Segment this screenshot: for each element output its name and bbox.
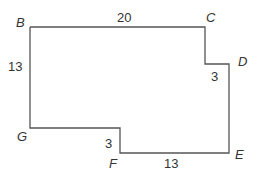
measure-bg: 13 bbox=[8, 60, 22, 73]
vertex-label-b: B bbox=[16, 16, 25, 29]
vertex-label-c: C bbox=[206, 11, 215, 24]
vertex-label-g: G bbox=[17, 130, 27, 143]
vertex-label-f: F bbox=[109, 157, 117, 170]
measure-gf-step: 3 bbox=[105, 137, 112, 150]
measure-bc: 20 bbox=[117, 11, 131, 24]
vertex-label-d: D bbox=[238, 55, 247, 68]
measure-cd-step: 3 bbox=[211, 70, 218, 83]
polygon-outline bbox=[30, 27, 229, 153]
measure-fe: 13 bbox=[164, 157, 178, 170]
polygon-figure bbox=[0, 0, 267, 179]
vertex-label-e: E bbox=[235, 148, 244, 161]
